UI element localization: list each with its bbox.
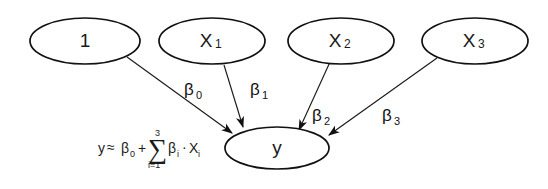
formula-plus: +: [138, 140, 146, 156]
formula-sigma-lower: i=1: [148, 160, 160, 170]
edge-beta1: β 1: [224, 65, 268, 127]
edge-beta3-label: β: [382, 106, 392, 125]
edge-beta0-line: [127, 57, 232, 133]
node-y-label: y: [272, 137, 282, 158]
node-constant: 1: [30, 18, 140, 64]
regression-formula: y ≈ β 0 + 3 ∑ i=1 β i · X i: [98, 128, 200, 170]
edge-beta3-label-sub: 3: [394, 115, 400, 127]
formula-intercept: β: [121, 140, 129, 156]
edge-beta0: β 0: [127, 57, 232, 133]
edge-beta2: β 2: [299, 62, 330, 130]
edge-beta0-label-sub: 0: [196, 89, 202, 101]
node-x3: X 3: [422, 18, 528, 64]
regression-diagram: β 0 β 1 β 2 β 3 1 X: [0, 0, 548, 189]
formula-relation: ≈: [107, 139, 115, 155]
edge-beta2-label-sub: 2: [324, 115, 330, 127]
node-x2: X 2: [288, 18, 394, 64]
formula-term-beta-sub: i: [177, 149, 179, 159]
node-y: y: [225, 127, 329, 169]
edge-beta1-label-sub: 1: [262, 89, 268, 101]
node-x1-label: X: [200, 30, 213, 51]
edge-beta0-label: β: [184, 80, 194, 99]
formula-term-x-sub: i: [198, 149, 200, 159]
node-constant-label: 1: [80, 30, 91, 51]
node-x1: X 1: [159, 18, 265, 64]
formula-term-beta: β: [168, 140, 176, 156]
node-x3-label-sub: 3: [478, 37, 485, 51]
edge-beta3: β 3: [329, 58, 437, 135]
node-x2-label: X: [329, 30, 342, 51]
formula-lhs: y: [98, 140, 105, 156]
edge-beta1-line: [224, 65, 243, 127]
node-x2-label-sub: 2: [344, 37, 351, 51]
diagram-canvas: β 0 β 1 β 2 β 3 1 X: [0, 0, 548, 189]
formula-intercept-sub: 0: [130, 149, 135, 159]
edge-beta1-label: β: [250, 80, 260, 99]
formula-dot: ·: [182, 139, 187, 155]
node-x1-label-sub: 1: [215, 37, 222, 51]
edge-beta2-label: β: [312, 106, 322, 125]
node-x3-label: X: [463, 30, 476, 51]
